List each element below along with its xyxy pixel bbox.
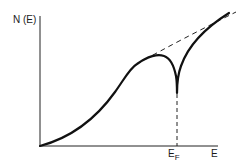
x-axis-label: E (211, 149, 218, 159)
density-of-states-diagram: N (E) E EF (0, 0, 243, 166)
plot-area (0, 0, 243, 166)
density-of-states-curve (40, 13, 229, 146)
fermi-energy-label: EF (168, 149, 180, 162)
y-axis-label: N (E) (13, 15, 36, 25)
fermi-energy-base: E (168, 148, 175, 159)
fermi-energy-subscript: F (175, 153, 180, 162)
